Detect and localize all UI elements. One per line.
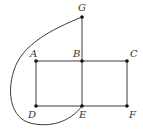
node-d: [34, 104, 38, 108]
node-g: [80, 15, 84, 19]
node-f: [125, 104, 129, 108]
edge-g-e-curve: [11, 17, 82, 125]
node-a: [34, 59, 38, 63]
label-e: E: [78, 109, 87, 120]
graph-diagram: G A B C D E F: [0, 0, 143, 130]
label-a: A: [29, 48, 37, 59]
label-g: G: [78, 2, 86, 13]
label-d: D: [27, 109, 36, 120]
label-b: B: [72, 48, 80, 59]
node-c: [125, 59, 129, 63]
label-f: F: [128, 109, 137, 120]
node-e: [80, 104, 84, 108]
node-b: [80, 59, 84, 63]
label-c: C: [130, 48, 138, 59]
